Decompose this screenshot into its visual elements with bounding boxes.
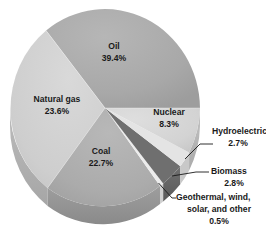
label-coal-name: Coal [92,146,111,156]
label-geothermal-line2: solar, and other [187,204,252,214]
label-hydroelectric-name: Hydroelectric [212,126,266,136]
label-oil-name: Oil [108,41,119,51]
label-hydroelectric-value: 2.7% [228,138,248,148]
label-nuclear-name: Nuclear [153,107,185,117]
pie-chart-svg: Oil 39.4% Natural gas 23.6% Coal 22.7% N… [0,0,266,232]
label-geothermal-value: 0.5% [209,216,229,226]
label-natural-gas-name: Natural gas [34,94,81,104]
label-biomass-name: Biomass [211,166,247,176]
label-oil-value: 39.4% [102,53,127,63]
label-geothermal-line1: Geothermal, wind, [176,192,251,202]
label-biomass-value: 2.8% [224,178,244,188]
label-natural-gas-value: 23.6% [45,106,70,116]
label-nuclear-value: 8.3% [159,119,179,129]
pie-chart-figure: Oil 39.4% Natural gas 23.6% Coal 22.7% N… [0,0,266,232]
label-coal-value: 22.7% [89,158,114,168]
